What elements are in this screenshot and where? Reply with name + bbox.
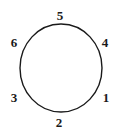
- label-5: 5: [54, 9, 66, 22]
- label-6: 6: [8, 36, 20, 49]
- label-3: 3: [8, 91, 20, 104]
- label-2: 2: [53, 116, 65, 129]
- diagram-canvas: 5 4 6 3 1 2: [0, 0, 117, 132]
- label-1: 1: [100, 91, 112, 104]
- circle: [20, 24, 102, 112]
- label-4: 4: [99, 36, 111, 49]
